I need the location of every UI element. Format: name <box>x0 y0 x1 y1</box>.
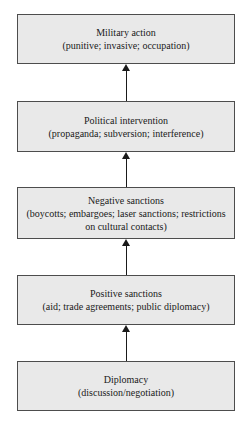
flow-box-diplomacy: Diplomacy (discussion/negotiation) <box>17 361 235 411</box>
flow-box-military-action: Military action (punitive; invasive; occ… <box>17 14 235 64</box>
box-subtitle: (aid; trade agreements; public diplomacy… <box>42 300 209 313</box>
box-title: Military action <box>96 26 156 39</box>
arrow-shaft <box>126 243 127 275</box>
box-subtitle: (discussion/negotiation) <box>78 386 174 399</box>
arrow-shaft <box>126 329 127 361</box>
up-arrow-positive-to-negative <box>122 239 131 275</box>
flow-box-negative-sanctions: Negative sanctions (boycotts; embargoes;… <box>17 187 235 239</box>
flow-box-political-intervention: Political intervention (propaganda; subv… <box>17 101 235 152</box>
box-subtitle: (boycotts; embargoes; laser sanctions; r… <box>22 207 230 233</box>
box-subtitle: (punitive; invasive; occupation) <box>62 39 189 52</box>
box-title: Negative sanctions <box>88 194 164 207</box>
box-title: Diplomacy <box>104 373 148 386</box>
arrow-shaft <box>126 156 127 187</box>
arrow-shaft <box>126 68 127 101</box>
escalation-ladder-diagram: Military action (punitive; invasive; occ… <box>0 0 252 425</box>
up-arrow-political-to-military <box>122 64 131 101</box>
box-title: Positive sanctions <box>90 287 162 300</box>
up-arrow-negative-to-political <box>122 152 131 187</box>
box-subtitle: (propaganda; subversion; interference) <box>49 127 204 140</box>
flow-box-positive-sanctions: Positive sanctions (aid; trade agreement… <box>17 275 235 325</box>
up-arrow-diplomacy-to-positive <box>122 325 131 361</box>
box-title: Political intervention <box>84 114 168 127</box>
